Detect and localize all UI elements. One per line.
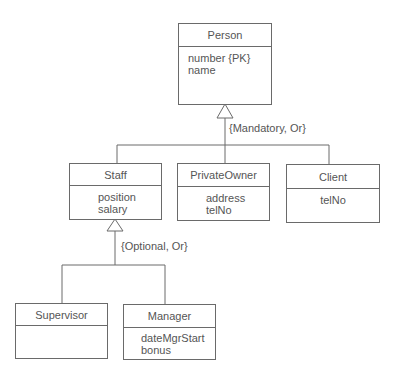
class-name: Supervisor [16, 304, 107, 326]
class-name: Client [287, 165, 379, 189]
constraint-mandatory-or: {Mandatory, Or} [229, 122, 306, 134]
class-manager[interactable]: Manager dateMgrStart bonus [123, 304, 216, 360]
constraint-optional-or: {Optional, Or} [121, 240, 188, 252]
class-name: PrivateOwner [178, 164, 269, 187]
class-attributes: dateMgrStart bonus [124, 328, 215, 356]
class-supervisor[interactable]: Supervisor [15, 303, 108, 359]
attribute: bonus [141, 344, 215, 356]
attribute: number {PK} [188, 52, 271, 64]
class-name: Staff [70, 164, 161, 186]
class-attributes: position salary [70, 186, 161, 215]
class-name: Manager [124, 305, 215, 328]
attribute: salary [98, 203, 161, 215]
attribute: position [98, 191, 161, 203]
class-attributes: address telNo [178, 187, 269, 216]
class-client[interactable]: Client telNo [286, 164, 380, 223]
attribute: name [188, 64, 271, 76]
class-staff[interactable]: Staff position salary [69, 163, 162, 220]
generalization-triangle-person [217, 104, 233, 118]
class-attributes: telNo [287, 189, 379, 206]
class-attributes: number {PK} name [179, 47, 271, 76]
attribute: telNo [206, 204, 269, 216]
attribute: address [206, 192, 269, 204]
generalization-triangle-staff [107, 219, 123, 231]
class-name: Person [179, 24, 271, 47]
attribute: dateMgrStart [141, 332, 215, 344]
class-person[interactable]: Person number {PK} name [178, 23, 272, 105]
class-privateowner[interactable]: PrivateOwner address telNo [177, 163, 270, 221]
class-attributes [16, 326, 107, 332]
attribute: telNo [287, 194, 379, 206]
